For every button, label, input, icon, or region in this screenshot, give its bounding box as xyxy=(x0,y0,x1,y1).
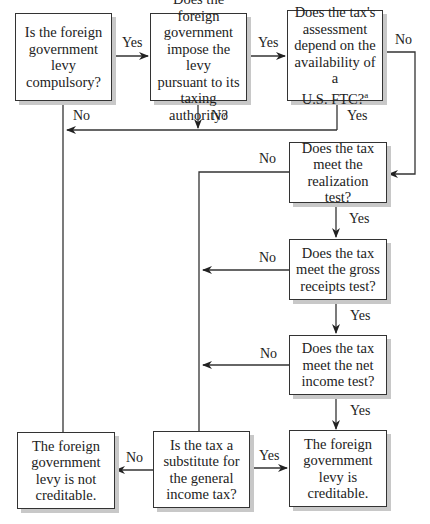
node-realization: Does the tax meet the realization test? xyxy=(289,142,387,203)
node-substitute: Is the tax a substitute for the general … xyxy=(153,431,250,508)
edge-label-no-gross: No xyxy=(259,251,276,265)
node-ftc-dependent: Does the tax's assessment depend on the … xyxy=(287,10,383,101)
node-realization-text: Does the tax meet the realization test? xyxy=(294,140,382,206)
node-not-creditable: The foreign government levy is not credi… xyxy=(17,432,115,509)
node-taxing-authority: Does the foreign government impose the l… xyxy=(150,13,247,101)
node-compulsory: Is the foreign government levy compulsor… xyxy=(15,13,112,101)
edge-label-no-net: No xyxy=(260,347,277,361)
node-gross-receipts: Does the tax meet the gross receipts tes… xyxy=(289,239,387,300)
node-compulsory-text: Is the foreign government levy compulsor… xyxy=(25,24,102,90)
edge-label-yes-gross: Yes xyxy=(350,309,370,323)
edge-label-yes-1: Yes xyxy=(122,36,142,50)
edge-label-yes-substitute: Yes xyxy=(259,449,279,463)
node-not-creditable-text: The foreign government levy is not credi… xyxy=(31,438,100,504)
edge-label-no-taxing: No xyxy=(211,109,228,123)
edge-label-no-compulsory: No xyxy=(73,109,90,123)
edge-label-yes-2: Yes xyxy=(258,36,278,50)
edge-label-no-substitute: No xyxy=(126,451,143,465)
node-net-income-text: Does the tax meet the net income test? xyxy=(302,340,375,390)
edge-label-yes-ftc: Yes xyxy=(347,109,367,123)
node-creditable: The foreign government levy is creditabl… xyxy=(289,430,387,507)
edge-label-yes-net: Yes xyxy=(350,404,370,418)
node-gross-receipts-text: Does the tax meet the gross receipts tes… xyxy=(296,245,380,295)
footnote-marker: a xyxy=(364,90,368,100)
node-creditable-text: The foreign government levy is creditabl… xyxy=(303,436,372,502)
edge-label-no-realization: No xyxy=(259,152,276,166)
edge-label-no-ftc: No xyxy=(395,33,412,47)
node-substitute-text: Is the tax a substitute for the general … xyxy=(163,437,239,503)
node-net-income: Does the tax meet the net income test? xyxy=(289,335,387,395)
edge-label-yes-realization: Yes xyxy=(349,212,369,226)
node-taxing-authority-text: Does the foreign government impose the l… xyxy=(155,0,242,123)
